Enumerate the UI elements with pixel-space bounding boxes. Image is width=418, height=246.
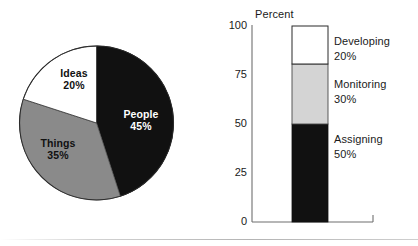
legend-value-monitoring: 30% xyxy=(334,92,386,107)
pie-label-things-value: 35% xyxy=(47,149,68,161)
legend-value-developing: 20% xyxy=(334,49,390,64)
bar-segment-developing xyxy=(292,26,328,64)
pie-chart-graphic xyxy=(0,0,205,232)
pie-label-ideas-title: Ideas xyxy=(60,67,87,79)
pie-label-people: People 45% xyxy=(110,108,172,133)
legend-label-developing: Developing xyxy=(334,35,390,47)
bottom-divider xyxy=(0,239,418,240)
legend-value-assigning: 50% xyxy=(334,147,383,162)
legend-label-monitoring: Monitoring xyxy=(334,78,386,90)
figure-canvas: People 45% Things 35% Ideas 20% xyxy=(0,0,418,246)
pie-label-people-value: 45% xyxy=(130,120,151,132)
y-tick-label-25: 25 xyxy=(213,167,247,179)
y-tick-label-50: 50 xyxy=(213,118,247,130)
legend-entry-developing: Developing 20% xyxy=(334,34,390,63)
pie-label-things-title: Things xyxy=(40,137,75,149)
y-axis-title: Percent xyxy=(255,9,294,21)
y-tick-label-100: 100 xyxy=(213,20,247,32)
bar-segment-assigning xyxy=(292,124,328,222)
legend-label-assigning: Assigning xyxy=(334,133,383,145)
legend-entry-monitoring: Monitoring 30% xyxy=(334,77,386,106)
pie-label-people-title: People xyxy=(123,108,158,120)
stacked-bar-chart-panel: Percent 100 75 50 25 0 Developing 20% Mo… xyxy=(210,0,418,232)
y-tick-label-0: 0 xyxy=(213,216,247,228)
pie-chart-panel: People 45% Things 35% Ideas 20% xyxy=(0,0,205,232)
pie-label-ideas: Ideas 20% xyxy=(43,67,105,92)
pie-label-ideas-value: 20% xyxy=(63,79,84,91)
pie-label-things: Things 35% xyxy=(27,137,89,162)
y-tick-label-75: 75 xyxy=(213,69,247,81)
bar-segment-monitoring xyxy=(292,64,328,124)
legend-entry-assigning: Assigning 50% xyxy=(334,132,383,161)
